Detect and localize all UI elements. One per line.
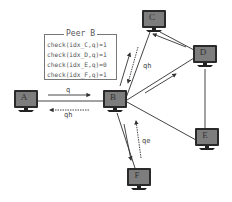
peer-node-c: C [142,10,166,34]
node-label: E [195,129,215,141]
node-label: A [14,91,34,103]
node-label: F [127,169,147,181]
check-line-e: check(idx_E,q)=0 [47,60,107,70]
arrow-d-to-c [153,34,186,47]
label-query-a-b: q [66,86,70,94]
link-b-f [117,113,135,168]
arrow-b-to-d [145,74,176,93]
check-line-d: check(idx_D,q)=1 [47,50,107,60]
peer-node-f: F [127,168,151,192]
monitor-icon: F [127,168,151,186]
network-diagram: Peer B check(idx_C,q)=1 check(idx_D,q)=1… [0,0,232,202]
peer-node-e: E [195,128,219,152]
peer-box-title: Peer B [64,29,97,38]
monitor-icon: E [195,128,219,146]
arrow-f-to-b [136,121,141,158]
peer-node-d: D [193,45,217,69]
check-line-f: check(idx_F,q)=1 [47,70,107,80]
peer-box-lines: check(idx_C,q)=1 check(idx_D,q)=1 check(… [47,40,107,80]
node-label: C [142,11,162,23]
link-c-d [160,32,194,50]
label-qe-f-b: qe [142,137,150,145]
link-b-d [127,58,194,100]
label-qh-c-b: qh [143,62,151,70]
monitor-icon: D [193,45,217,63]
node-label: B [103,91,123,103]
check-line-c: check(idx_C,q)=1 [47,40,107,50]
monitor-icon: A [14,90,38,108]
peer-node-a: A [14,90,38,114]
monitor-icon: C [142,10,166,28]
node-label: D [193,46,213,58]
label-qh-b-a: qh [64,111,72,119]
monitor-icon: B [103,90,127,108]
arrow-b-to-f [124,124,131,160]
peer-node-b: B [103,90,127,114]
peer-b-index-box: Peer B check(idx_C,q)=1 check(idx_D,q)=1… [44,34,117,80]
